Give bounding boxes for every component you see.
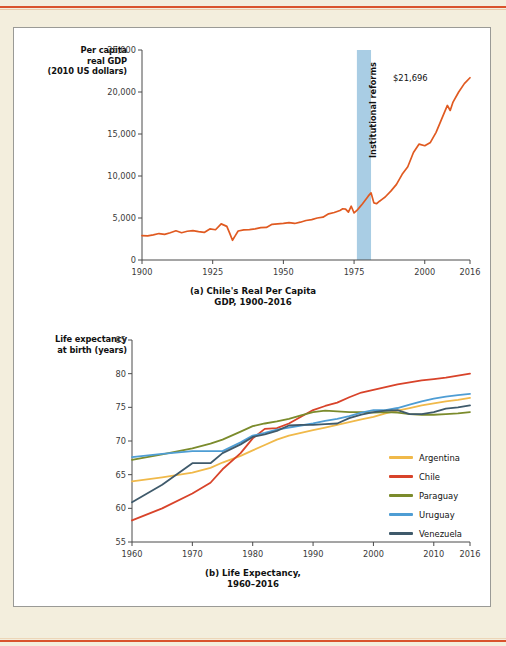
figure-a-y-tick: 5,000 xyxy=(84,213,136,223)
legend-item-label: Paraguay xyxy=(419,491,458,501)
figure-b-x-tick: 2000 xyxy=(363,549,384,559)
figure-b-x-tick: 1970 xyxy=(182,549,203,559)
legend-item-label: Argentina xyxy=(419,453,460,463)
figure-b-y-tick: 80 xyxy=(94,369,126,379)
bottom-rule xyxy=(0,640,506,642)
legend-item-venezuela: Venezuela xyxy=(389,524,462,543)
top-rule xyxy=(0,6,506,8)
figure-a-x-tick: 1950 xyxy=(273,267,294,277)
figure-b-y-tick: 75 xyxy=(94,402,126,412)
figure-b-legend: ArgentinaChileParaguayUruguayVenezuela xyxy=(389,448,462,543)
legend-item-chile: Chile xyxy=(389,467,462,486)
legend-item-paraguay: Paraguay xyxy=(389,486,462,505)
figure-b-y-tick: 65 xyxy=(94,470,126,480)
figure-a-value-annotation: $21,696 xyxy=(393,73,428,83)
legend-item-argentina: Argentina xyxy=(389,448,462,467)
legend-swatch-icon xyxy=(389,513,413,516)
figure-b-life-expectancy: Life expectancyat birth (years) 55606570… xyxy=(14,316,492,606)
figure-b-x-tick: 1960 xyxy=(122,549,143,559)
page-background: Per capitareal GDP(2010 US dollars) 05,0… xyxy=(0,0,506,646)
figure-b-x-tick: 2010 xyxy=(423,549,444,559)
figure-b-y-tick: 60 xyxy=(94,503,126,513)
legend-item-uruguay: Uruguay xyxy=(389,505,462,524)
figure-a-y-tick: 20,000 xyxy=(84,87,136,97)
legend-item-label: Uruguay xyxy=(419,510,455,520)
figure-a-y-tick: 25,000 xyxy=(84,45,136,55)
figure-b-y-tick: 55 xyxy=(94,537,126,547)
figure-a-y-tick: 15,000 xyxy=(84,129,136,139)
figure-b-y-tick: 85 xyxy=(94,335,126,345)
figure-a-y-tick: 10,000 xyxy=(84,171,136,181)
legend-swatch-icon xyxy=(389,456,413,459)
figure-a-band-label: Institutional reforms xyxy=(368,62,378,158)
figure-a-x-tick: 2016 xyxy=(460,267,481,277)
figure-a-y-tick: 0 xyxy=(84,255,136,265)
figure-a-x-tick: 1975 xyxy=(344,267,365,277)
legend-item-label: Venezuela xyxy=(419,529,462,539)
figure-b-x-tick: 1990 xyxy=(303,549,324,559)
figure-a-series-chile xyxy=(142,78,470,241)
figure-a-chile-gdp: Per capitareal GDP(2010 US dollars) 05,0… xyxy=(14,28,492,318)
top-rule-secondary xyxy=(0,9,506,10)
legend-swatch-icon xyxy=(389,532,413,535)
figure-a-caption: (a) Chile's Real Per CapitaGDP, 1900–201… xyxy=(14,286,492,308)
figure-b-y-tick: 70 xyxy=(94,436,126,446)
legend-swatch-icon xyxy=(389,494,413,497)
figure-panel: Per capitareal GDP(2010 US dollars) 05,0… xyxy=(13,27,491,607)
figure-b-caption: (b) Life Expectancy,1960–2016 xyxy=(14,568,492,590)
legend-item-label: Chile xyxy=(419,472,440,482)
figure-a-x-tick: 1925 xyxy=(202,267,223,277)
legend-swatch-icon xyxy=(389,475,413,478)
figure-a-x-tick: 1900 xyxy=(132,267,153,277)
figure-a-x-tick: 2000 xyxy=(414,267,435,277)
figure-b-x-tick: 2016 xyxy=(460,549,481,559)
bottom-rule-secondary xyxy=(0,638,506,639)
figure-b-x-tick: 1980 xyxy=(242,549,263,559)
